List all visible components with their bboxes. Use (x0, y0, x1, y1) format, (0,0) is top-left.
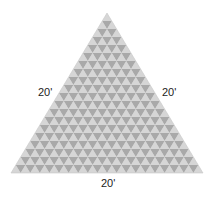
bottom-side-length-label: 20' (101, 178, 115, 189)
up-triangle-tile (102, 13, 112, 21)
triangle-grid-diagram (0, 0, 218, 197)
right-side-length-label: 20' (162, 87, 176, 98)
left-side-length-label: 20' (38, 87, 52, 98)
